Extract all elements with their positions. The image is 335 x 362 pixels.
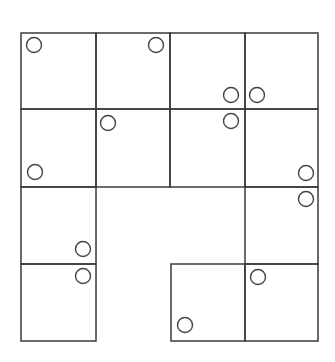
circle-marker-icon: [250, 88, 265, 103]
grid-cell-r1c1: [21, 33, 96, 109]
grid-cell-r1c4: [245, 33, 318, 109]
grid-cell-r2c3: [170, 109, 245, 187]
circle-marker-icon: [224, 88, 239, 103]
grid-cell-r3c4: [245, 187, 318, 264]
grid-cell-r4c4: [245, 264, 318, 341]
grid-cell-r1c3: [170, 33, 245, 109]
grid-cell-r4c1: [21, 264, 96, 341]
circle-marker-icon: [299, 192, 314, 207]
circle-marker-icon: [76, 269, 91, 284]
circle-marker-icon: [28, 165, 43, 180]
circle-marker-icon: [149, 38, 164, 53]
grid-cell-r2c4: [245, 109, 318, 187]
grid-cell-r2c1: [21, 109, 96, 187]
circle-marker-icon: [76, 242, 91, 257]
grid-diagram: [0, 0, 335, 362]
grid-cell-r3c1: [21, 187, 96, 264]
circle-marker-icon: [178, 318, 193, 333]
circle-marker-icon: [224, 114, 239, 129]
circle-marker-icon: [101, 116, 116, 131]
circle-marker-icon: [251, 270, 266, 285]
circle-marker-icon: [299, 166, 314, 181]
grid-cells: [21, 33, 318, 341]
circle-marker-icon: [27, 38, 42, 53]
grid-cell-r1c2: [96, 33, 170, 109]
grid-cell-r2c2: [96, 109, 170, 187]
grid-cell-r4c3: [171, 264, 245, 341]
